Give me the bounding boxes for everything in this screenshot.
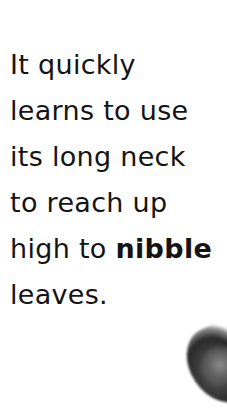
- line-text: It quickly: [10, 49, 136, 80]
- line-text: leaves.: [10, 279, 108, 310]
- vocabulary-word: nibble: [116, 233, 213, 264]
- story-line-3: its long neck: [10, 134, 212, 180]
- story-line-1: It quickly: [10, 42, 212, 88]
- line-text: its long neck: [10, 141, 186, 172]
- story-line-4: to reach up: [10, 180, 212, 226]
- story-line-6: leaves.: [10, 272, 212, 318]
- story-line-2: learns to use: [10, 88, 212, 134]
- story-text: It quickly learns to use its long neck t…: [10, 42, 212, 318]
- line-text: to reach up: [10, 187, 167, 218]
- story-line-5: high to nibble: [10, 226, 212, 272]
- line-text: learns to use: [10, 95, 188, 126]
- line-text: high to: [10, 233, 116, 264]
